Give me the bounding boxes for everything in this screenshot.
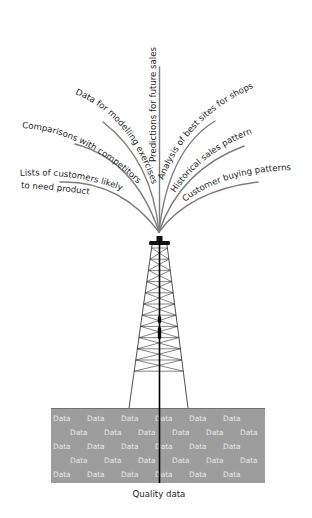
reservoir-data-word: Data: [240, 428, 258, 437]
reservoir-data-word: Data: [172, 456, 190, 465]
reservoir-data-word: Data: [155, 470, 173, 479]
reservoir-data-word: Data: [121, 442, 139, 451]
reservoir-data-word: Data: [138, 456, 156, 465]
reservoir-data-word: Data: [104, 428, 122, 437]
reservoir-data-word: Data: [53, 442, 71, 451]
derrick-diagram: Lists of customers likely to need produc…: [0, 0, 312, 518]
reservoir-data-word: Data: [53, 470, 71, 479]
reservoir-data-word: Data: [223, 470, 241, 479]
reservoir-data-word: Data: [87, 414, 105, 423]
reservoir-data-word: Data: [240, 456, 258, 465]
reservoir-data-word: Data: [189, 442, 207, 451]
reservoir-data-word: Data: [87, 442, 105, 451]
reservoir-data-word: Data: [189, 470, 207, 479]
derrick-crown-block: [157, 236, 163, 241]
reservoir-caption: Quality data: [133, 489, 186, 499]
data-reservoir: DataDataDataDataDataDataDataDataDataData…: [51, 408, 265, 483]
reservoir-data-word: Data: [172, 428, 190, 437]
output-labels: Lists of customers likely to need produc…: [20, 46, 292, 203]
reservoir-data-word: Data: [189, 414, 207, 423]
reservoir-data-word: Data: [121, 414, 139, 423]
reservoir-data-word: Data: [87, 470, 105, 479]
reservoir-data-word: Data: [53, 414, 71, 423]
reservoir-data-word: Data: [223, 442, 241, 451]
label-modelling: Data for modelling exercises: [74, 87, 160, 186]
reservoir-data-word: Data: [104, 456, 122, 465]
reservoir-data-word: Data: [155, 414, 173, 423]
label-predictions: Predictions for future sales: [148, 46, 158, 162]
reservoir-data-word: Data: [121, 470, 139, 479]
reservoir-data-word: Data: [206, 456, 224, 465]
reservoir-data-word: Data: [138, 428, 156, 437]
reservoir-data-word: Data: [206, 428, 224, 437]
reservoir-data-word: Data: [70, 456, 88, 465]
reservoir-data-word: Data: [155, 442, 173, 451]
reservoir-data-word: Data: [70, 428, 88, 437]
reservoir-data-word: Data: [223, 414, 241, 423]
